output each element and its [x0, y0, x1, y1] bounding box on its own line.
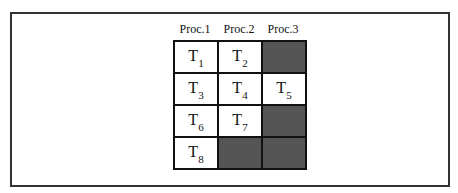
task-index: 4	[242, 89, 248, 101]
column-header-proc-2: Proc.2	[217, 22, 261, 37]
idle-cell	[262, 137, 306, 169]
task-schedule-grid: T1T2T3T4T5T6T7T8	[173, 40, 307, 170]
task-cell: T1	[174, 41, 218, 73]
task-label: T3	[188, 79, 203, 99]
idle-cell	[218, 137, 262, 169]
idle-cell	[262, 41, 306, 73]
task-index: 6	[198, 121, 204, 133]
column-header-proc-3: Proc.3	[261, 22, 305, 37]
task-label: T8	[188, 143, 203, 163]
task-label: T2	[232, 47, 247, 67]
task-cell: T8	[174, 137, 218, 169]
task-index: 8	[198, 153, 204, 165]
task-index: 5	[286, 89, 292, 101]
task-index: 2	[242, 57, 248, 69]
column-header-proc-1: Proc.1	[173, 22, 217, 37]
task-label: T5	[276, 79, 291, 99]
task-label: T1	[188, 47, 203, 67]
task-cell: T5	[262, 73, 306, 105]
task-index: 7	[242, 121, 248, 133]
task-cell: T3	[174, 73, 218, 105]
task-label: T6	[188, 111, 203, 131]
task-label: T7	[232, 111, 247, 131]
task-cell: T4	[218, 73, 262, 105]
task-index: 1	[198, 57, 204, 69]
task-cell: T7	[218, 105, 262, 137]
task-index: 3	[198, 89, 204, 101]
task-label: T4	[232, 79, 247, 99]
task-cell: T2	[218, 41, 262, 73]
idle-cell	[262, 105, 306, 137]
task-cell: T6	[174, 105, 218, 137]
